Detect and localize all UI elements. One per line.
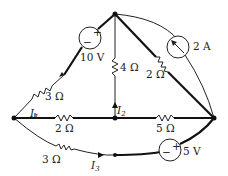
current-label-i2: I2 bbox=[116, 104, 126, 118]
resistor-2ohm-horizontal bbox=[55, 115, 73, 121]
branch-top-middle bbox=[112, 14, 118, 118]
current-label-i3: I3 bbox=[90, 159, 100, 173]
voltage-source-5v: + − bbox=[159, 139, 181, 161]
current-arrow-i3 bbox=[98, 152, 104, 158]
voltage-source-10v: + − bbox=[79, 26, 102, 49]
plus-sign: + bbox=[172, 140, 181, 152]
plus-sign: + bbox=[93, 26, 102, 38]
resistor-3ohm-lower bbox=[56, 144, 74, 150]
label-3ohm-upper: 3 Ω bbox=[45, 90, 64, 102]
label-5v: 5 V bbox=[183, 145, 201, 157]
label-4ohm: 4 Ω bbox=[120, 61, 139, 73]
label-2ohm-diagonal: 2 Ω bbox=[146, 68, 165, 80]
node-right bbox=[212, 116, 217, 121]
circuit-diagram: + − 10 V 3 Ω 4 Ω 2 Ω 2 A 2 Ω 5 Ω bbox=[0, 0, 228, 176]
current-label-i1: I1 bbox=[29, 107, 39, 121]
current-source-2a bbox=[167, 36, 189, 58]
node-middle bbox=[113, 116, 118, 121]
resistor-4ohm bbox=[112, 58, 118, 76]
label-10v: 10 V bbox=[80, 51, 105, 63]
label-2a: 2 A bbox=[193, 40, 211, 52]
minus-sign: − bbox=[83, 36, 92, 48]
node-left bbox=[12, 116, 17, 121]
resistor-5ohm bbox=[156, 115, 174, 121]
label-3ohm-lower: 3 Ω bbox=[42, 153, 61, 165]
node-bottom-junction bbox=[113, 153, 117, 157]
node-top bbox=[113, 12, 118, 17]
minus-sign: − bbox=[162, 146, 171, 158]
label-2ohm-horizontal: 2 Ω bbox=[55, 122, 74, 134]
label-5ohm: 5 Ω bbox=[156, 122, 175, 134]
